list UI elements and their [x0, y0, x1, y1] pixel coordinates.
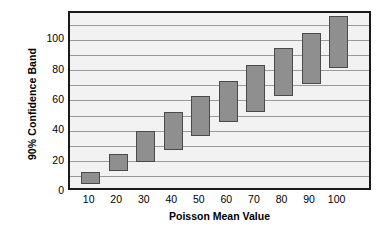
x-tick-label: 80 — [276, 193, 288, 205]
confidence-band-bar — [329, 16, 348, 68]
x-tick-label: 40 — [165, 193, 177, 205]
y-tick-label: 20 — [52, 155, 64, 165]
gridline — [70, 70, 369, 71]
chart-figure: 90% Confidence Band 020406080100 1020304… — [0, 0, 388, 240]
x-tick-label: 10 — [83, 193, 95, 205]
x-tick-label: 90 — [303, 193, 315, 205]
plot-area — [68, 11, 371, 190]
x-tick-label: 50 — [193, 193, 205, 205]
x-tick-label: 60 — [221, 193, 233, 205]
gridline — [70, 25, 369, 26]
x-axis-title: Poisson Mean Value — [68, 210, 371, 222]
gridline — [70, 131, 369, 132]
gridline — [70, 176, 369, 177]
x-tick-label: 100 — [328, 193, 346, 205]
confidence-band-bar — [191, 96, 210, 135]
x-axis-tick-labels: 102030405060708090100 — [68, 193, 371, 207]
y-tick-label: 40 — [52, 124, 64, 134]
x-tick-label: 70 — [248, 193, 260, 205]
gridline — [70, 55, 369, 56]
gridline — [70, 146, 369, 147]
y-tick-label: 80 — [52, 64, 64, 74]
confidence-band-bar — [274, 48, 293, 97]
y-tick-label: 60 — [52, 94, 64, 104]
confidence-band-bar — [302, 33, 321, 85]
confidence-band-bar — [219, 81, 238, 122]
y-axis-tick-labels: 020406080100 — [24, 11, 64, 190]
gridline — [70, 40, 369, 41]
x-tick-label: 20 — [110, 193, 122, 205]
y-tick-label: 100 — [46, 33, 64, 43]
y-tick-label: 0 — [58, 185, 64, 195]
confidence-band-bar — [136, 131, 155, 161]
confidence-band-bar — [164, 112, 183, 150]
x-tick-label: 30 — [138, 193, 150, 205]
confidence-band-bar — [81, 172, 100, 184]
confidence-band-bar — [246, 65, 265, 112]
confidence-band-bar — [109, 154, 128, 171]
